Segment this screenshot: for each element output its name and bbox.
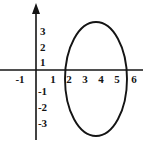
x-tick-label-1: 1	[50, 74, 55, 85]
graph-figure: -1 1 2 3 4 5 6 3 2 1 -1 -2 -3	[0, 0, 143, 149]
x-tick-label-6: 6	[131, 74, 136, 85]
y-tick-label-neg3: -3	[38, 118, 47, 129]
x-tick-label-4: 4	[98, 74, 103, 85]
y-tick-label-2: 2	[40, 42, 45, 53]
y-tick-label-3: 3	[40, 26, 45, 37]
y-tick-label-neg2: -2	[38, 102, 47, 113]
y-axis-arrow-icon	[32, 3, 40, 14]
x-tick-label-neg1: -1	[16, 74, 25, 85]
x-tick-label-2: 2	[66, 74, 71, 85]
y-tick-label-1: 1	[40, 57, 45, 68]
y-tick-label-neg1: -1	[38, 86, 47, 97]
x-tick-label-5: 5	[114, 74, 119, 85]
x-tick-label-3: 3	[82, 74, 87, 85]
